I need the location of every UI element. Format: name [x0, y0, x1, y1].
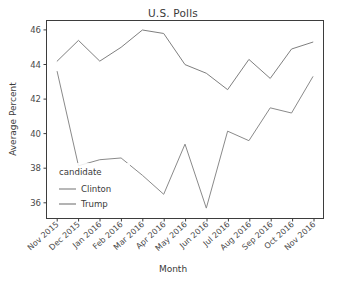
x-axis-title: Month	[159, 264, 187, 274]
y-tick-label: 42	[30, 94, 41, 104]
legend-label-trump: Trump	[80, 199, 108, 209]
chart-figure: U.S. Polls 46 44 42 40 38 36	[0, 0, 346, 284]
y-tick-label: 38	[30, 163, 41, 173]
x-axis-tick-labels: Nov 2015 Dec 2015 Jan 2016 Feb 2016 Mar …	[26, 220, 317, 253]
y-tick-label: 44	[30, 60, 41, 70]
legend: candidate Clinton Trump	[54, 163, 130, 213]
y-axis-title: Average Percent	[8, 82, 18, 156]
y-tick-label: 40	[30, 129, 41, 139]
y-tick-label: 36	[30, 198, 41, 208]
line-chart-plot: 46 44 42 40 38 36 Nov 2015 Dec 2015	[0, 0, 346, 284]
legend-title: candidate	[59, 167, 102, 177]
y-axis-tick-labels: 46 44 42 40 38 36	[30, 25, 41, 208]
legend-label-clinton: Clinton	[81, 184, 111, 194]
y-tick-label: 46	[30, 25, 41, 35]
